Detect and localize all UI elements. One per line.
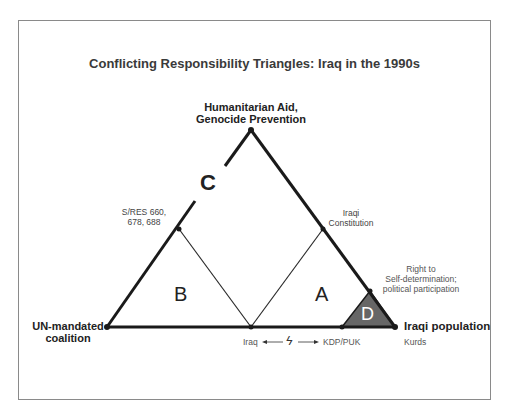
- triangle-diagram: [0, 0, 509, 419]
- left-vertex-line1: UN-mandated: [30, 320, 106, 332]
- conflict-lightning-icon: ϟ: [286, 334, 292, 348]
- self-determination-line1: Right to: [368, 264, 474, 274]
- sres-line1: S/RES 660,: [114, 207, 174, 217]
- iraq-dot: [249, 325, 254, 330]
- sres-dot: [177, 227, 182, 232]
- arrow-left-head: [262, 340, 267, 344]
- constitution-line1: Iraqi: [326, 208, 376, 218]
- iraq-label: Iraq: [243, 337, 258, 347]
- region-b-label: B: [174, 283, 187, 306]
- sres-line2: 678, 688: [114, 217, 174, 227]
- constitution-line2: Constitution: [326, 218, 376, 228]
- region-c-label: C: [200, 170, 216, 196]
- right-vertex-sublabel: Kurds: [404, 337, 426, 347]
- constitution-dot: [321, 227, 326, 232]
- top-vertex-line2: Genocide Prevention: [171, 113, 331, 125]
- vertex-right-dot: [392, 324, 398, 330]
- region-a-label: A: [315, 283, 328, 306]
- top-vertex-label: Humanitarian Aid, Genocide Prevention: [171, 101, 331, 125]
- sres-label: S/RES 660, 678, 688: [114, 207, 174, 227]
- constitution-label: Iraqi Constitution: [326, 208, 376, 228]
- top-vertex-line1: Humanitarian Aid,: [171, 101, 331, 113]
- right-vertex-label: Iraqi population: [404, 320, 490, 332]
- self-determination-line3: political participation: [368, 284, 474, 294]
- left-vertex-line2: coalition: [30, 332, 106, 344]
- kdp-puk-label: KDP/PUK: [323, 337, 360, 347]
- self-determination-label: Right to Self-determination; political p…: [368, 264, 474, 294]
- inner-line-left: [179, 229, 251, 327]
- self-determination-line2: Self-determination;: [368, 274, 474, 284]
- left-vertex-label: UN-mandated coalition: [30, 320, 106, 344]
- vertex-top-dot: [248, 127, 254, 133]
- region-d-label: D: [361, 304, 374, 325]
- inner-line-right: [251, 229, 323, 327]
- kdp-puk-dot: [340, 325, 345, 330]
- left-edge-upper: [225, 130, 251, 166]
- arrow-right-head: [314, 340, 319, 344]
